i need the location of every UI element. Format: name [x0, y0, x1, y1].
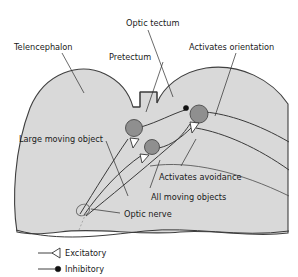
inhibitory-synapse-tectal	[183, 105, 188, 110]
legend-label-inhibitory: Inhibitory	[65, 264, 104, 274]
tectal-neuron	[190, 105, 208, 123]
label-telencephalon: Telencephalon	[13, 42, 73, 52]
figure-container: Telencephalon Optic tectum Pretectum Act…	[0, 0, 298, 277]
label-activates-avoidance: Activates avoidance	[159, 172, 242, 182]
label-optic-nerve: Optic nerve	[124, 209, 172, 219]
excitatory-icon	[52, 248, 60, 258]
label-optic-tectum: Optic tectum	[126, 18, 179, 28]
leader-optic-tectum	[148, 30, 173, 97]
legend-item-excitatory: Excitatory	[38, 248, 106, 258]
label-all-moving-objects: All moving objects	[151, 192, 226, 202]
pretectal-neuron-lower	[145, 140, 160, 155]
legend-item-inhibitory: Inhibitory	[38, 264, 104, 274]
label-pretectum: Pretectum	[109, 52, 151, 62]
pretectal-neuron-upper	[126, 120, 143, 137]
label-activates-orientation: Activates orientation	[189, 42, 274, 52]
legend: Excitatory Inhibitory	[38, 248, 106, 274]
legend-label-excitatory: Excitatory	[65, 248, 106, 258]
diagram-canvas: Telencephalon Optic tectum Pretectum Act…	[0, 0, 298, 277]
label-large-moving-object: Large moving object	[19, 134, 104, 144]
inhibitory-icon	[55, 266, 61, 272]
